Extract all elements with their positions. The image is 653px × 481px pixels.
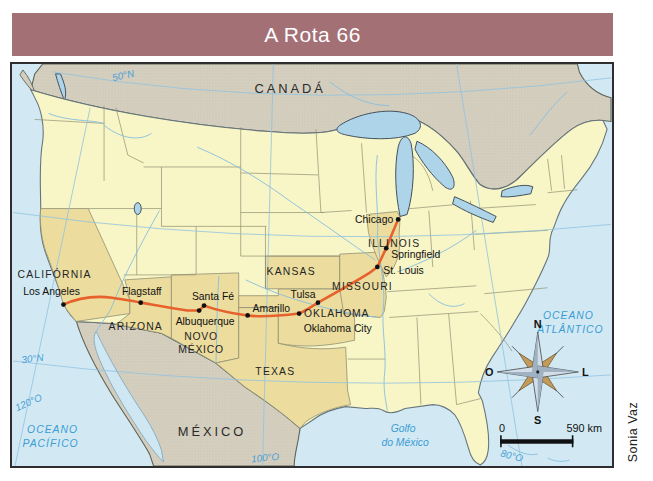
label-city-st-louis: St. Louis (383, 265, 423, 276)
city-dot-chicago (396, 217, 401, 222)
label-gulf-2: do México (381, 437, 429, 448)
city-dot-tulsa (316, 300, 321, 305)
label-mexico: MÉXICO (178, 424, 247, 439)
label-state-oklahoma: OKLAHOMA (304, 308, 369, 319)
label-city-albuquerque: Albuquerque (176, 316, 235, 327)
label-state-missouri: MISSOURI (332, 281, 393, 292)
label-city-flagstaff: Flagstaff (122, 286, 162, 297)
label-pacific-2: PACÍFICO (23, 437, 79, 449)
compass-south-label: S (534, 414, 541, 426)
label-state-novo-mexico-1: NOVO (184, 331, 218, 342)
label-state-novo-mexico-2: MÉXICO (178, 343, 224, 355)
city-dot-albuquerque (197, 308, 202, 313)
city-dot-los-angeles (61, 302, 66, 307)
label-state-kansas: KANSAS (267, 266, 316, 277)
label-atlantic-2: ATLÂNTICO (536, 323, 603, 335)
label-city-springfield: Springfield (391, 249, 440, 260)
city-dot-st-louis (375, 265, 380, 270)
compass-west-label: O (485, 366, 493, 378)
label-state-arizona: ARIZONA (109, 321, 163, 332)
compass-east-label: L (582, 366, 589, 378)
label-pacific-1: OCEANO (27, 424, 78, 435)
label-state-california: CALIFÓRNIA (17, 268, 91, 280)
city-dot-santa-fe (202, 303, 207, 308)
map-credit: Sonia Vaz (626, 387, 642, 477)
label-city-amarillo: Amarillo (253, 303, 291, 314)
compass-north-label: N (534, 318, 542, 330)
label-atlantic-1: OCEANO (543, 310, 594, 321)
label-city-los-angeles: Los Angeles (23, 286, 80, 297)
map-title-bar: A Rota 66 (12, 13, 613, 56)
label-state-illinois: ILLINOIS (368, 238, 420, 249)
route66-map: CANADÁ MÉXICO OCEANO PACÍFICO OCEANO ATL… (10, 62, 614, 468)
label-state-texas: TEXAS (255, 366, 295, 377)
label-city-oklahoma-city: Oklahoma City (304, 323, 373, 334)
label-canada: CANADÁ (255, 81, 326, 96)
city-dot-flagstaff (138, 300, 143, 305)
label-gulf-1: Golfo (391, 423, 416, 434)
label-city-chicago: Chicago (355, 214, 393, 225)
label-city-santa-fe: Santa Fé (192, 291, 234, 302)
label-city-tulsa: Tulsa (291, 289, 316, 300)
route66-map-svg: CANADÁ MÉXICO OCEANO PACÍFICO OCEANO ATL… (12, 64, 612, 466)
city-dot-oklahoma-city (297, 311, 302, 316)
map-title: A Rota 66 (264, 23, 361, 46)
great-salt-lake (134, 203, 141, 215)
scale-start-label: 0 (499, 422, 505, 434)
scale-end-label: 590 km (566, 422, 602, 434)
city-dot-amarillo (245, 313, 250, 318)
